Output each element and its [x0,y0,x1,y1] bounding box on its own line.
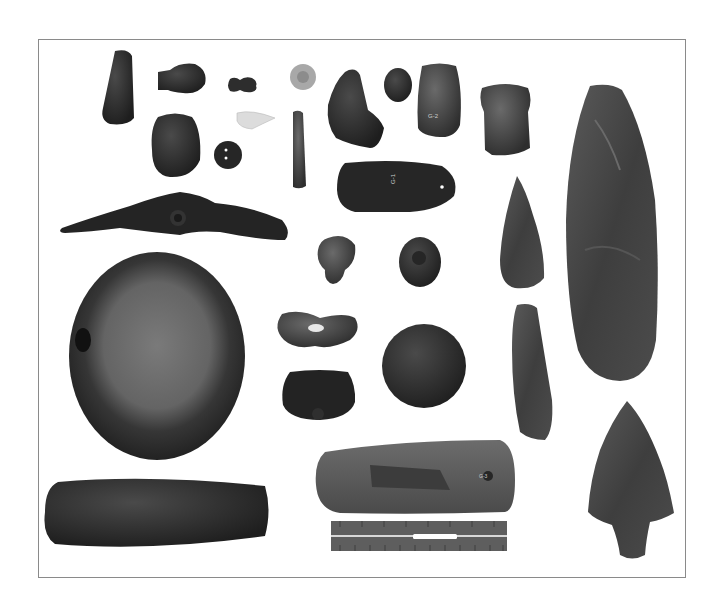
artifact-photograph: G-2 G-1 G-3 [0,0,723,607]
squared-adze [480,84,530,155]
catalog-label: G-3 [479,473,488,479]
gorget [337,161,456,212]
pipe-bowl [158,64,206,94]
notched-point [588,401,674,559]
large-biface [566,85,658,381]
stone-rod [293,111,306,189]
adze-left [418,64,461,138]
catalog-label: G-2 [428,113,439,119]
bead-effigy [228,77,257,92]
mortar-stone [69,252,245,460]
white-point [237,112,275,129]
discoidal [382,324,466,408]
knobbed-stone-a [318,236,356,284]
measuring-ruler [331,521,507,551]
grooved-stone [152,114,201,178]
pestle-bar [44,479,268,547]
blade [512,304,552,440]
catalog-label: G-1 [390,173,396,184]
triangular-stone [328,70,384,148]
lanceolate-point [500,176,544,288]
small-celt [102,50,134,124]
oval-pebble [384,68,412,102]
perforated-button [214,141,242,169]
